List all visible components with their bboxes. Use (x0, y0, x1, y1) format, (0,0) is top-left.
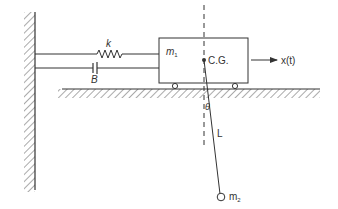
spring-icon (35, 50, 159, 58)
ground (58, 89, 320, 98)
spring-label: k (106, 38, 112, 49)
displacement-label: x(t) (281, 55, 295, 66)
damper: B (35, 62, 159, 85)
spring: k (35, 38, 159, 58)
center-of-gravity-label: C.G. (208, 55, 229, 66)
fixed-wall (24, 12, 35, 192)
angle-label: θ (205, 102, 210, 112)
ground-hatching (58, 89, 320, 98)
cart-pendulum-diagram: k B m1 C.G. x(t) θ L m2 (0, 0, 338, 209)
bob-mass-label: m2 (229, 191, 241, 203)
wheel-left-icon (172, 83, 177, 88)
wheel-right-icon (232, 83, 237, 88)
length-label: L (217, 128, 223, 139)
pendulum-bob-icon (217, 193, 225, 201)
wall-hatching (24, 12, 35, 192)
damper-label: B (91, 74, 98, 85)
